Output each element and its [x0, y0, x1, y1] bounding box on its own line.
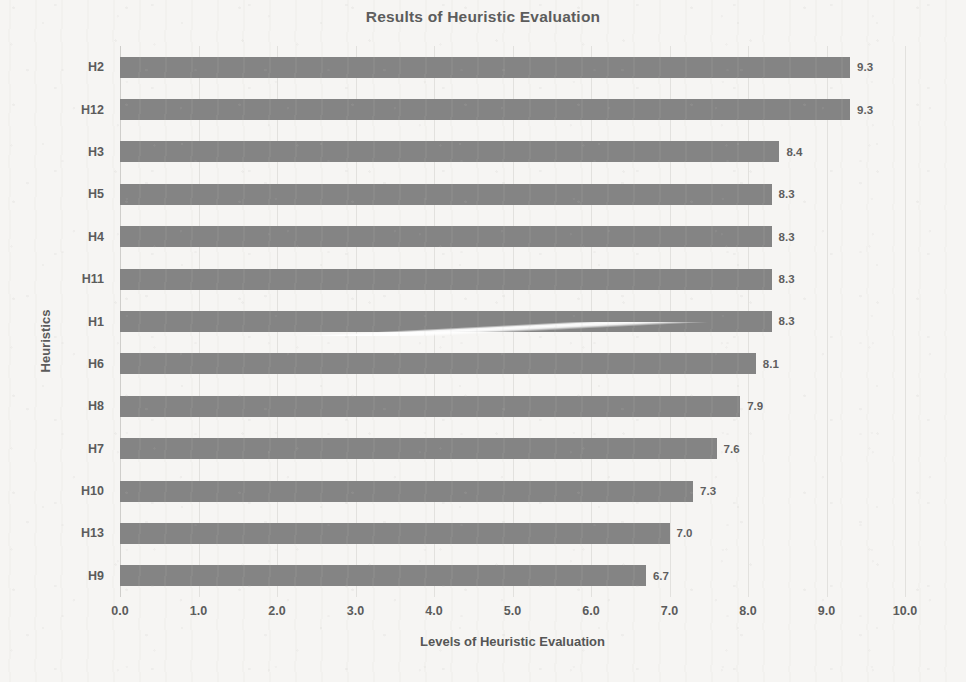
- bar-row: 6.7: [120, 555, 905, 597]
- bar-row: 8.3: [120, 173, 905, 215]
- bar-row: 8.3: [120, 216, 905, 258]
- bar-row: 8.3: [120, 300, 905, 342]
- bar-value-label: 6.7: [653, 570, 669, 582]
- y-axis-category-label: H3: [34, 145, 104, 159]
- y-axis-category-label: H11: [34, 272, 104, 286]
- y-axis-category-label: H6: [34, 357, 104, 371]
- gridline: [905, 46, 906, 597]
- bar-value-label: 8.1: [763, 358, 779, 370]
- bar-value-label: 7.9: [747, 400, 763, 412]
- bar-value-label: 8.3: [779, 188, 795, 200]
- x-axis-tick-label: 8.0: [739, 604, 756, 618]
- x-axis-tick-label: 9.0: [818, 604, 835, 618]
- y-axis-category-label: H4: [34, 230, 104, 244]
- x-axis-tick-label: 10.0: [893, 604, 917, 618]
- x-axis-tick-label: 7.0: [661, 604, 678, 618]
- bar: [120, 226, 772, 247]
- bar: [120, 353, 756, 374]
- y-axis-category-labels: H2H12H3H5H4H11H1H6H8H7H10H13H9: [0, 46, 120, 597]
- bar-row: 8.1: [120, 343, 905, 385]
- bar: [120, 523, 670, 544]
- x-axis-tick-label: 6.0: [582, 604, 599, 618]
- bar: [120, 438, 717, 459]
- bar-row: 7.0: [120, 512, 905, 554]
- bar: [120, 99, 850, 120]
- bar-row: 7.3: [120, 470, 905, 512]
- bar-value-label: 8.4: [786, 146, 802, 158]
- y-axis-category-label: H9: [34, 569, 104, 583]
- plot-area: 9.39.38.48.38.38.38.38.17.97.67.37.06.7: [120, 46, 905, 597]
- bar-value-label: 9.3: [857, 104, 873, 116]
- y-axis-category-label: H7: [34, 442, 104, 456]
- bar-row: 9.3: [120, 88, 905, 130]
- bar: [120, 565, 646, 586]
- bar-value-label: 8.3: [779, 273, 795, 285]
- bar-row: 7.9: [120, 385, 905, 427]
- x-axis-tick-label: 3.0: [347, 604, 364, 618]
- x-axis-tick-label: 4.0: [425, 604, 442, 618]
- bar: [120, 311, 772, 332]
- bar: [120, 396, 740, 417]
- bar-chart: Results of Heuristic Evaluation Heuristi…: [0, 0, 966, 682]
- y-axis-category-label: H5: [34, 187, 104, 201]
- x-axis-tick-label: 2.0: [268, 604, 285, 618]
- bar-value-label: 7.3: [700, 485, 716, 497]
- chart-title: Results of Heuristic Evaluation: [0, 8, 966, 26]
- y-axis-category-label: H10: [34, 484, 104, 498]
- bar: [120, 481, 693, 502]
- bar-row: 8.4: [120, 131, 905, 173]
- bar-value-label: 9.3: [857, 61, 873, 73]
- y-axis-category-label: H12: [34, 103, 104, 117]
- bar-value-label: 8.3: [779, 315, 795, 327]
- x-axis-tick-label: 0.0: [111, 604, 128, 618]
- y-axis-category-label: H8: [34, 399, 104, 413]
- y-axis-category-label: H2: [34, 60, 104, 74]
- bar: [120, 57, 850, 78]
- bar-value-label: 8.3: [779, 231, 795, 243]
- bar-value-label: 7.0: [677, 527, 693, 539]
- y-axis-category-label: H13: [34, 526, 104, 540]
- x-axis-tick-label: 1.0: [190, 604, 207, 618]
- bar-row: 9.3: [120, 46, 905, 88]
- bar-row: 8.3: [120, 258, 905, 300]
- bar-value-label: 7.6: [724, 443, 740, 455]
- x-axis-tick-label: 5.0: [504, 604, 521, 618]
- bar: [120, 269, 772, 290]
- bar-row: 7.6: [120, 427, 905, 469]
- bar: [120, 141, 779, 162]
- y-axis-category-label: H1: [34, 315, 104, 329]
- x-axis-tick-labels: 0.01.02.03.04.05.06.07.08.09.010.0: [0, 604, 966, 626]
- bar: [120, 184, 772, 205]
- x-axis-title: Levels of Heuristic Evaluation: [120, 634, 905, 649]
